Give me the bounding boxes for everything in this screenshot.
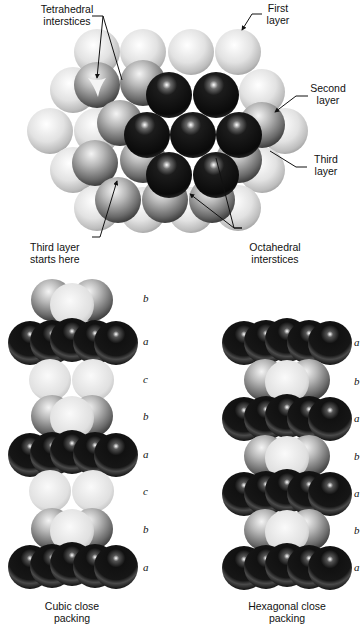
label-third-layer-starts-here: Third layer starts here bbox=[30, 241, 90, 265]
caption-line: packing bbox=[232, 612, 342, 624]
caption-line: Cubic close bbox=[22, 600, 122, 612]
layer-letter: b bbox=[143, 292, 149, 304]
label-line: First bbox=[256, 2, 300, 14]
layer-letter: a bbox=[354, 561, 360, 573]
label-line: layer bbox=[300, 94, 356, 106]
label-second-layer: Second layer bbox=[300, 82, 356, 106]
layer-letter: a bbox=[143, 561, 149, 573]
layer-letter: b bbox=[143, 410, 149, 422]
layer-letter: a bbox=[354, 336, 360, 348]
layer-letter: b bbox=[354, 450, 360, 462]
layer-letter: a bbox=[143, 335, 149, 347]
label-first-layer: First layer bbox=[256, 2, 300, 26]
label-tetrahedral-interstices: Tetrahedral interstices bbox=[12, 3, 122, 27]
label-octahedral-interstices: Octahedral interstices bbox=[244, 241, 306, 265]
layer-letter: b bbox=[354, 524, 360, 536]
label-line: Octahedral bbox=[244, 241, 306, 253]
caption-line: Hexagonal close bbox=[232, 600, 342, 612]
cubic-stack bbox=[8, 279, 138, 589]
layer-letter: a bbox=[354, 487, 360, 499]
label-third-layer: Third layer bbox=[302, 153, 350, 177]
layer-letter: a bbox=[354, 412, 360, 424]
label-line: interstices bbox=[244, 253, 306, 265]
label-line: layer bbox=[302, 165, 350, 177]
label-line: Second bbox=[300, 82, 356, 94]
hexagonal-stack bbox=[222, 318, 352, 590]
top-diagram bbox=[27, 14, 308, 237]
caption-hexagonal-close-packing: Hexagonal close packing bbox=[232, 600, 342, 624]
layer-letter: c bbox=[143, 373, 148, 385]
layer-letter: b bbox=[354, 375, 360, 387]
label-line: Tetrahedral bbox=[12, 3, 122, 15]
layer-letter: c bbox=[143, 485, 148, 497]
label-line: Third bbox=[302, 153, 350, 165]
layer-letter: b bbox=[143, 523, 149, 535]
label-line: layer bbox=[256, 14, 300, 26]
caption-cubic-close-packing: Cubic close packing bbox=[22, 600, 122, 624]
layer-letter: a bbox=[143, 448, 149, 460]
label-line: Third layer bbox=[30, 241, 90, 253]
label-line: interstices bbox=[12, 15, 122, 27]
label-line: starts here bbox=[30, 253, 90, 265]
caption-line: packing bbox=[22, 612, 122, 624]
